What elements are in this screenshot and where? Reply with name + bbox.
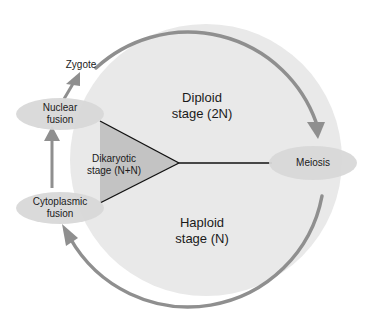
meiosis-label: Meiosis xyxy=(296,157,330,169)
cytoplasmic-fusion-line2: fusion xyxy=(33,208,87,220)
zygote-label: Zygote xyxy=(66,59,97,71)
cytoplasmic-fusion-line1: Cytoplasmic xyxy=(33,196,87,208)
haploid-line2: stage (N) xyxy=(175,231,228,247)
cytoplasmic-fusion-label: Cytoplasmic fusion xyxy=(33,196,87,220)
nuclear-fusion-line1: Nuclear xyxy=(43,102,77,114)
diploid-stage-label: Diploid stage (2N) xyxy=(172,90,233,121)
diploid-line2: stage (2N) xyxy=(172,106,233,122)
dikaryotic-line2: stage (N+N) xyxy=(87,165,141,177)
arrowhead-zygote-icon xyxy=(66,72,80,86)
life-cycle-diagram: Zygote Nuclear fusion Cytoplasmic fusion… xyxy=(0,0,372,318)
dikaryotic-stage-label: Dikaryotic stage (N+N) xyxy=(87,153,141,177)
haploid-line1: Haploid xyxy=(175,215,228,231)
nuclear-fusion-label: Nuclear fusion xyxy=(43,102,77,126)
haploid-stage-label: Haploid stage (N) xyxy=(175,215,228,246)
arrowhead-cytoplasmic-icon xyxy=(62,224,78,246)
dikaryotic-line1: Dikaryotic xyxy=(87,153,141,165)
diploid-line1: Diploid xyxy=(172,90,233,106)
nuclear-fusion-line2: fusion xyxy=(43,114,77,126)
